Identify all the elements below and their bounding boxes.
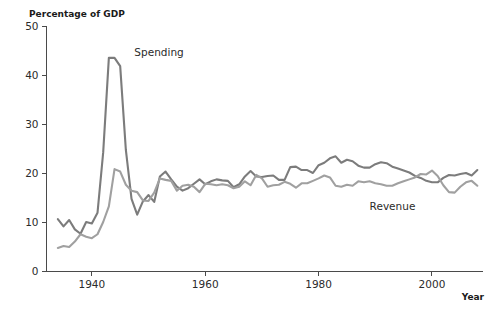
x-tick-label: 2000 [419, 278, 446, 290]
annotation-spending: Spending [134, 46, 183, 58]
y-tick-label: 40 [25, 69, 38, 81]
chart-figure: Percentage of GDP 01020304050 1940196019… [0, 0, 490, 309]
series-group [58, 58, 477, 248]
y-axis-ticks: 01020304050 [25, 20, 46, 277]
y-tick-label: 50 [25, 20, 38, 32]
y-tick-label: 30 [25, 118, 38, 130]
y-tick-label: 10 [25, 216, 38, 228]
gdp-spending-revenue-chart: Percentage of GDP 01020304050 1940196019… [0, 0, 490, 309]
x-tick-label: 1960 [192, 278, 219, 290]
y-tick-label: 20 [25, 167, 38, 179]
x-tick-label: 1980 [305, 278, 332, 290]
x-axis-title: Year [461, 292, 485, 302]
annotation-revenue: Revenue [370, 200, 416, 212]
y-axis-title: Percentage of GDP [29, 9, 125, 19]
x-axis-ticks: 1940196019802000 [78, 272, 445, 290]
x-tick-label: 1940 [78, 278, 105, 290]
y-tick-label: 0 [32, 265, 39, 277]
